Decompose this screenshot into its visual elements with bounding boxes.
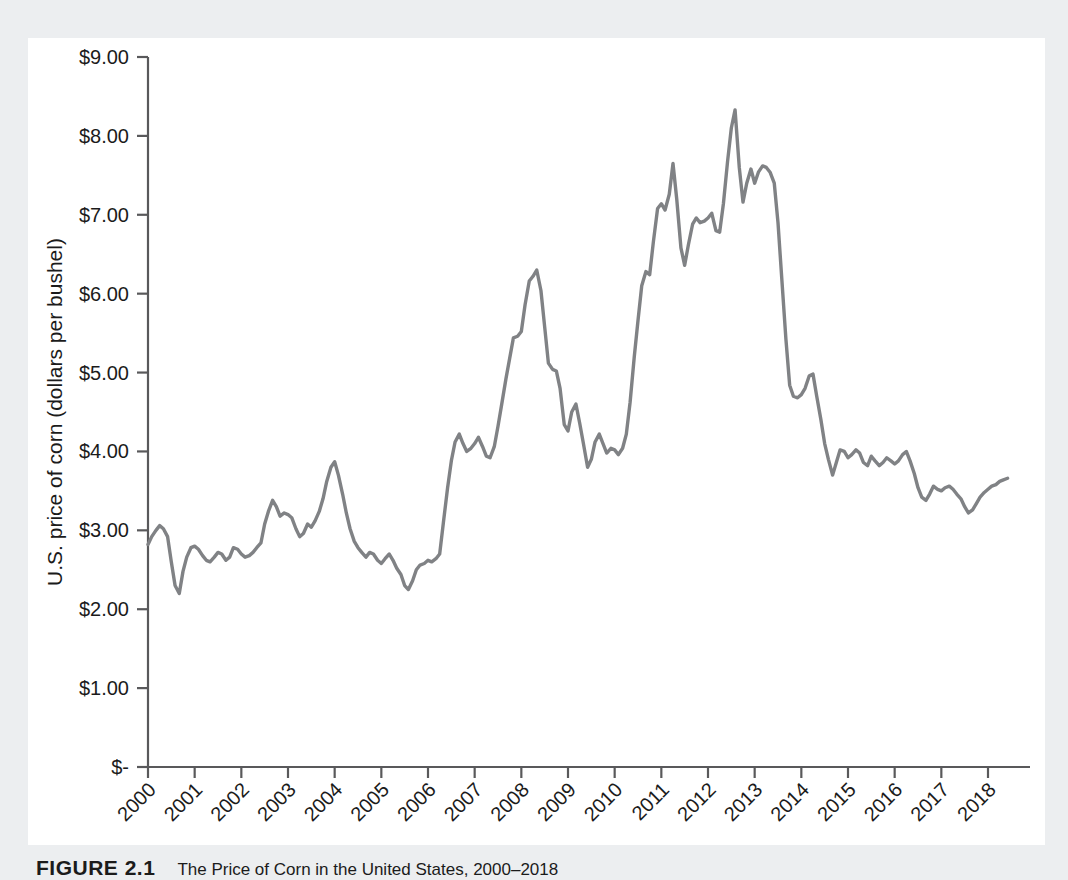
y-axis-tick-label: $7.00 [79, 204, 129, 226]
x-axis-tick-label: 2010 [579, 778, 626, 825]
y-axis-tick-label: $2.00 [79, 598, 129, 620]
x-axis-tick-label: 2004 [299, 778, 346, 825]
x-axis-tick-label: 2001 [159, 778, 206, 825]
y-axis-tick-label: $6.00 [79, 283, 129, 305]
y-axis-tick-label: $4.00 [79, 440, 129, 462]
x-axis-tick-label: 2013 [719, 778, 766, 825]
y-axis-title: U.S. price of corn (dollars per bushel) [43, 238, 66, 586]
figure-caption-text: The Price of Corn in the United States, … [177, 860, 558, 879]
x-axis-tick-label: 2014 [766, 778, 813, 825]
x-axis-tick-label: 2006 [393, 778, 440, 825]
x-axis-tick-label: 2018 [953, 778, 1000, 825]
y-axis-tick-label: $9.00 [79, 46, 129, 68]
y-axis-tick-label: $3.00 [79, 519, 129, 541]
x-axis-tick-group: 2000200120022003200420052006200720082009… [113, 767, 1000, 825]
x-axis-tick-label: 2012 [673, 778, 720, 825]
y-axis-tick-label: $8.00 [79, 125, 129, 147]
y-axis-tick-group: $-$1.00$2.00$3.00$4.00$5.00$6.00$7.00$8.… [79, 46, 148, 778]
x-axis-tick-label: 2002 [206, 778, 253, 825]
x-axis-tick-label: 2008 [486, 778, 533, 825]
y-axis-tick-label: $- [111, 756, 129, 778]
y-axis-tick-label: $5.00 [79, 362, 129, 384]
corn-price-series-line [148, 110, 1008, 594]
x-axis-tick-label: 2009 [533, 778, 580, 825]
x-axis-tick-label: 2011 [627, 778, 673, 824]
x-axis-tick-label: 2007 [439, 778, 486, 825]
x-axis-tick-label: 2015 [813, 778, 860, 825]
x-axis-tick-label: 2003 [253, 778, 300, 825]
figure-caption-number: FIGURE 2.1 [36, 856, 155, 879]
figure-caption: FIGURE 2.1The Price of Corn in the Unite… [36, 856, 1036, 880]
y-axis-tick-label: $1.00 [79, 677, 129, 699]
x-axis-tick-label: 2017 [906, 778, 953, 825]
x-axis-tick-label: 2005 [346, 778, 393, 825]
x-axis-tick-label: 2016 [859, 778, 906, 825]
x-axis-tick-label: 2000 [113, 778, 160, 825]
